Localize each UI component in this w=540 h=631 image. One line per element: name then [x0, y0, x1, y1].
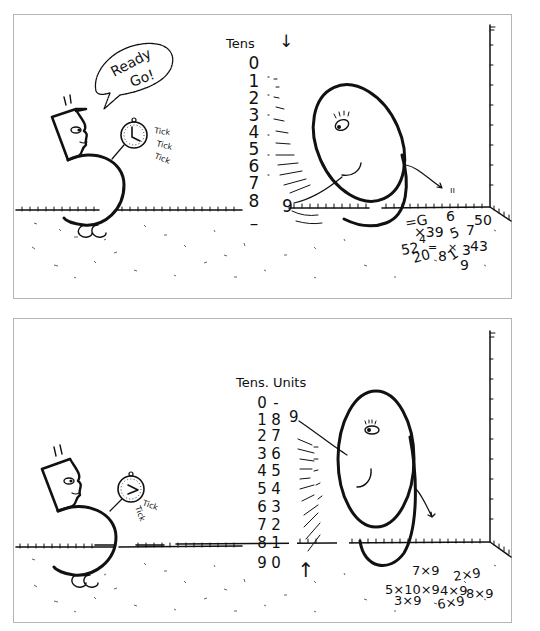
tens-cell: 8	[257, 534, 267, 552]
table-row: 90	[257, 554, 281, 572]
math-fragment: 43	[470, 238, 488, 254]
math-fragment: 1	[445, 245, 461, 263]
units-cell: 1	[271, 534, 281, 552]
panel-tens-units-table: Tick Tick Tens. Units 0- 18 27 36 45 54 …	[13, 318, 512, 623]
units-cell: 3	[271, 498, 281, 516]
tens-digit: 7	[249, 173, 260, 193]
small-nine: 9	[289, 408, 299, 426]
stopwatch-icon	[112, 118, 147, 159]
tens-cell: 5	[257, 480, 267, 498]
math-fragment: 3×9	[394, 593, 421, 608]
big-nine-character	[299, 391, 435, 566]
table-row: 45	[257, 462, 281, 480]
table-row: 36	[257, 445, 281, 463]
units-cell: 7	[271, 427, 281, 445]
small-nine: 9	[282, 196, 293, 216]
tens-cell: 9	[257, 554, 267, 572]
panel-tens-counting: Tick Tick Tick Ready Go! Tens 0 1 2 3 4 …	[13, 14, 512, 299]
tick-label: Tick	[152, 151, 171, 166]
tens-digit-column: 0 1 2 3 4 5 6 7 8 –	[249, 53, 260, 233]
table-row: 63	[257, 498, 281, 516]
tens-header: Tens	[225, 36, 255, 51]
math-fragment: 6	[446, 208, 455, 224]
math-fragment: 50	[474, 212, 492, 228]
tens-cell: 3	[257, 445, 267, 463]
wall-corner	[490, 25, 511, 221]
tens-units-table: 0- 18 27 36 45 54 63 72 81 90	[257, 394, 281, 572]
motion-lines	[268, 77, 322, 224]
tick-label: Tick	[155, 139, 174, 152]
scattered-math: =G ×39 6 5 7 50 52 4 = 20 8 × 1 3 43 9	[400, 208, 492, 273]
units-cell: 4	[271, 480, 281, 498]
finger-marks: ıı	[450, 185, 455, 195]
math-fragment: 6×9	[436, 593, 465, 612]
table-row: 0-	[257, 394, 278, 412]
table-row: 27	[257, 427, 281, 445]
math-fragment: 5	[448, 224, 462, 242]
up-arrow-icon: ↑	[298, 558, 315, 582]
down-arrow-icon: ↓	[279, 31, 293, 51]
scattered-math: 7×9 2×9 5×10×9 4×9 8×9 3×9 6×9	[385, 563, 493, 612]
tens-cell: 6	[257, 498, 267, 516]
math-fragment: 9	[460, 257, 469, 273]
tick-label: Tick	[153, 126, 171, 137]
big-nine-character: ıı	[294, 70, 455, 226]
tens-cell: 0	[257, 394, 267, 412]
math-fragment: 2×9	[452, 565, 481, 584]
tens-cell: 2	[257, 427, 267, 445]
math-fragment: 4	[419, 233, 426, 246]
table-row: 54	[257, 480, 281, 498]
math-fragment: 8×9	[466, 586, 493, 601]
tens-digit: –	[250, 213, 259, 233]
motion-lines	[298, 439, 322, 551]
table-row: 72	[257, 516, 281, 534]
tens-units-header: Tens. Units	[235, 375, 306, 390]
units-cell: 5	[271, 462, 281, 480]
wall-corner	[490, 331, 511, 557]
units-cell: 6	[271, 445, 281, 463]
ground-line	[16, 537, 490, 548]
tens-counting-illustration: Tick Tick Tick Ready Go! Tens 0 1 2 3 4 …	[14, 15, 513, 300]
tens-digit: 0	[249, 53, 260, 73]
units-cell: -	[273, 394, 278, 412]
tens-cell: 4	[257, 462, 267, 480]
tens-cell: 7	[257, 516, 267, 534]
tens-units-illustration: Tick Tick Tens. Units 0- 18 27 36 45 54 …	[14, 319, 513, 624]
units-cell: 0	[271, 554, 281, 572]
square-head-character	[52, 95, 124, 237]
units-cell: 2	[271, 516, 281, 534]
square-head-character	[42, 445, 116, 587]
tens-digit: 8	[249, 191, 260, 211]
math-fragment: 7×9	[412, 563, 439, 578]
